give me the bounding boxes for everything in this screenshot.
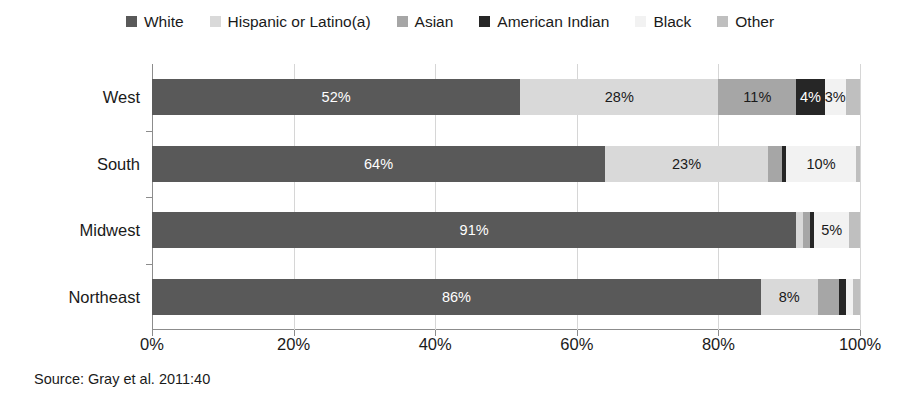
bar-segment[interactable]: 8% [761, 279, 818, 315]
x-axis-line [152, 329, 860, 330]
bar-segment[interactable]: 3% [825, 79, 846, 115]
legend-item[interactable]: Hispanic or Latino(a) [210, 14, 371, 30]
legend-swatch-icon [635, 16, 646, 27]
y-axis-tick [146, 264, 152, 265]
bar-segment[interactable] [818, 279, 839, 315]
bar-segment[interactable]: 91% [152, 212, 796, 248]
bar-segment-label: 3% [825, 90, 846, 105]
legend-swatch-icon [210, 16, 221, 27]
bar-segment[interactable] [768, 146, 782, 182]
x-axis-tick-label: 0% [140, 336, 164, 353]
bar-midwest: 91%5% [152, 212, 860, 248]
stacked-bar-chart: WhiteHispanic or Latino(a)AsianAmerican … [0, 0, 900, 407]
x-axis-tick-label: 60% [560, 336, 593, 353]
bar-segment-label: 64% [364, 157, 393, 172]
y-axis-label-midwest: Midwest [0, 222, 140, 239]
bar-segment[interactable] [849, 212, 860, 248]
legend-item[interactable]: American Indian [479, 14, 609, 30]
bar-segment[interactable] [803, 212, 810, 248]
bar-segment[interactable]: 10% [786, 146, 857, 182]
bar-segment-label: 5% [821, 223, 842, 238]
bar-segment-label: 11% [743, 90, 771, 105]
legend-item-label: Asian [415, 14, 454, 30]
legend-item-label: Black [653, 14, 691, 30]
y-axis-label-northeast: Northeast [0, 289, 140, 306]
legend-swatch-icon [126, 16, 137, 27]
bar-segment[interactable] [846, 279, 853, 315]
bar-segment[interactable] [846, 79, 860, 115]
legend-item[interactable]: Other [717, 14, 774, 30]
legend-item-label: Other [735, 14, 774, 30]
legend-swatch-icon [397, 16, 408, 27]
y-axis-category-labels: WestSouthMidwestNortheast [0, 64, 140, 330]
bar-northeast: 86%8% [152, 279, 860, 315]
bar-segment-label: 10% [807, 157, 836, 172]
bar-segment-label: 52% [322, 90, 351, 105]
y-axis-label-west: West [0, 89, 140, 106]
bar-segment[interactable] [853, 279, 860, 315]
bar-segment[interactable] [856, 146, 860, 182]
bar-segment-label: 23% [672, 157, 701, 172]
bar-segment[interactable]: 5% [814, 212, 849, 248]
source-note: Source: Gray et al. 2011:40 [34, 372, 210, 387]
bar-segment[interactable]: 4% [796, 79, 824, 115]
legend-swatch-icon [717, 16, 728, 27]
legend-swatch-icon [479, 16, 490, 27]
legend-item-label: White [144, 14, 184, 30]
legend-item[interactable]: White [126, 14, 184, 30]
y-axis-tick [146, 197, 152, 198]
chart-legend: WhiteHispanic or Latino(a)AsianAmerican … [0, 14, 900, 30]
plot-area: 52%28%11%4%3%64%23%10%91%5%86%8% [152, 64, 860, 330]
x-axis-tick-label: 20% [277, 336, 310, 353]
bar-segment[interactable]: 52% [152, 79, 520, 115]
bar-south: 64%23%10% [152, 146, 860, 182]
bar-segment[interactable] [796, 212, 803, 248]
bar-segment-label: 28% [605, 90, 634, 105]
legend-item-label: American Indian [497, 14, 609, 30]
legend-item-label: Hispanic or Latino(a) [228, 14, 371, 30]
x-axis-tick-label: 80% [702, 336, 735, 353]
gridline [860, 64, 861, 330]
legend-item[interactable]: Black [635, 14, 691, 30]
bar-segment[interactable]: 23% [605, 146, 768, 182]
x-axis-tick-label: 40% [419, 336, 452, 353]
y-axis-label-south: South [0, 156, 140, 173]
bar-segment-label: 4% [800, 90, 821, 105]
x-axis-tick-labels: 0%20%40%60%80%100% [152, 336, 860, 360]
x-axis-tick-label: 100% [839, 336, 881, 353]
bar-segment-label: 91% [460, 223, 489, 238]
bar-segment-label: 8% [779, 290, 800, 305]
bar-segment[interactable]: 64% [152, 146, 605, 182]
bar-west: 52%28%11%4%3% [152, 79, 860, 115]
bar-segment[interactable]: 86% [152, 279, 761, 315]
y-axis-tick [146, 131, 152, 132]
bar-segment[interactable] [839, 279, 846, 315]
bar-segment[interactable]: 11% [718, 79, 796, 115]
bar-segment[interactable]: 28% [520, 79, 718, 115]
legend-item[interactable]: Asian [397, 14, 454, 30]
bar-segment-label: 86% [442, 290, 471, 305]
